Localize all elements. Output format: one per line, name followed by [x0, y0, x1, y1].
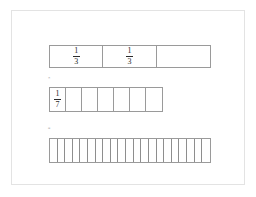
fraction-label-one-third: 1 3 [126, 47, 133, 66]
fraction-bar-thirds: 1 3 1 3 [49, 45, 211, 68]
fraction-cell [195, 139, 203, 162]
fraction-bar-twentyoneths [49, 138, 211, 163]
worksheet-sheet: 1 3 1 3 × 1 7 [11, 10, 245, 185]
fraction-cell [146, 88, 162, 111]
fraction-cell [88, 139, 96, 162]
fraction-cell [187, 139, 195, 162]
fraction-bar-sevenths: 1 7 [49, 87, 163, 112]
fraction-cell [149, 139, 157, 162]
fraction-cell [114, 88, 130, 111]
fraction-cell: 1 3 [103, 46, 156, 67]
multiply-operator: × [48, 76, 50, 80]
fraction-cell [164, 139, 172, 162]
fraction-cell [96, 139, 104, 162]
fraction-cell [65, 139, 73, 162]
fraction-cell [134, 139, 142, 162]
fraction-cell [157, 139, 165, 162]
fraction-cell [66, 88, 82, 111]
fraction-cell [73, 139, 81, 162]
fraction-cell [202, 139, 210, 162]
fraction-cell: 1 7 [50, 88, 66, 111]
fraction-cell [130, 88, 146, 111]
fraction-cell [82, 88, 98, 111]
fraction-cell [118, 139, 126, 162]
fraction-cell [50, 139, 58, 162]
fraction-cell [126, 139, 134, 162]
fraction-cell [103, 139, 111, 162]
fraction-cell [80, 139, 88, 162]
page-canvas: 1 3 1 3 × 1 7 [0, 0, 256, 197]
fraction-cell [111, 139, 119, 162]
fraction-cell [179, 139, 187, 162]
fraction-cell [141, 139, 149, 162]
fraction-cell: 1 3 [50, 46, 103, 67]
fraction-cell [157, 46, 210, 67]
fraction-label-one-seventh: 1 7 [54, 90, 61, 109]
fraction-cell [98, 88, 114, 111]
fraction-cell [172, 139, 180, 162]
fraction-label-one-third: 1 3 [73, 47, 80, 66]
fraction-cell [58, 139, 66, 162]
equals-operator: = [48, 126, 50, 130]
